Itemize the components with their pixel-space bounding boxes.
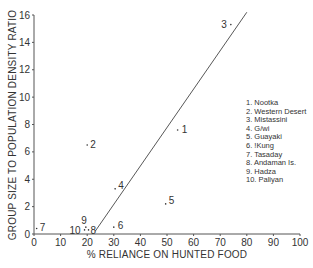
data-point-label: 4	[118, 180, 124, 191]
data-point-label: 9	[81, 215, 87, 226]
y-tick-label: 10	[19, 92, 31, 103]
data-point	[36, 228, 38, 230]
x-tick-label: 70	[215, 237, 227, 248]
data-point-label: 8	[91, 225, 97, 236]
data-point	[113, 226, 115, 228]
data-point	[177, 129, 179, 131]
x-tick-label: 0	[31, 237, 37, 248]
data-point-label: 7	[40, 222, 46, 233]
data-point-label: 6	[118, 220, 124, 231]
x-axis-title: % RELIANCE ON HUNTED FOOD	[87, 249, 248, 260]
data-point-label: 5	[169, 195, 175, 206]
y-tick-label: 2	[24, 201, 30, 212]
data-point	[84, 229, 86, 231]
data-point	[88, 229, 90, 231]
x-tick-label: 90	[268, 237, 280, 248]
y-axis-title: GROUP SIZE TO POPULATION DENSITY RATIO	[7, 10, 18, 240]
data-point	[85, 226, 87, 228]
data-point-label: 3	[221, 19, 227, 30]
x-tick-label: 50	[161, 237, 173, 248]
x-tick-label: 20	[82, 237, 94, 248]
y-tick-label: 12	[19, 64, 31, 75]
y-tick-label: 4	[24, 174, 30, 185]
x-tick-label: 100	[292, 237, 309, 248]
data-point-label: 1	[182, 124, 188, 135]
data-point	[230, 24, 232, 26]
data-point-label: 10	[69, 225, 81, 236]
y-tick-label: 6	[24, 146, 30, 157]
x-tick-label: 30	[108, 237, 120, 248]
y-tick-label: 0	[24, 229, 30, 240]
data-point	[114, 188, 116, 190]
y-tick-label: 16	[19, 10, 31, 21]
legend: 1. Nootka 2. Western Desert 3. Mistassin…	[246, 99, 306, 185]
y-tick-label: 8	[24, 119, 30, 130]
x-tick-label: 10	[55, 237, 67, 248]
x-tick-label: 40	[135, 237, 147, 248]
data-point-label: 2	[90, 139, 96, 150]
data-point	[165, 203, 167, 205]
data-point	[86, 144, 88, 146]
x-tick-label: 60	[188, 237, 200, 248]
legend-item: 10. Paliyan	[246, 176, 306, 185]
y-tick-label: 14	[19, 37, 31, 48]
data-points: 12345678910	[36, 19, 232, 236]
x-tick-label: 80	[241, 237, 253, 248]
